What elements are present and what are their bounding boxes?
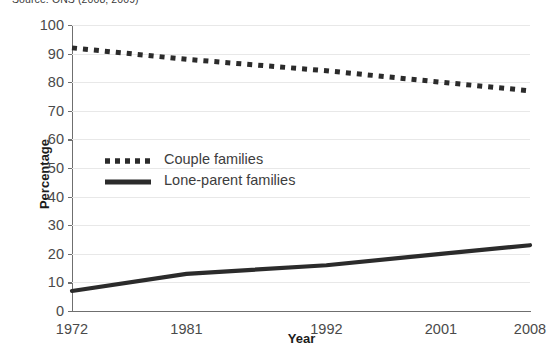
y-tick-mark [68, 311, 72, 312]
y-tick-label: 80 [48, 74, 64, 90]
legend-item: Couple families [104, 148, 295, 169]
series-line [72, 48, 530, 91]
x-axis-line [72, 311, 531, 312]
y-tick-label: 90 [48, 46, 64, 62]
x-tick-label: 2001 [425, 321, 457, 337]
y-tick-label: 0 [56, 303, 64, 319]
y-tick-label: 70 [48, 103, 64, 119]
x-tick-label: 1972 [56, 321, 88, 337]
dotted-line-icon [104, 153, 152, 165]
chart-legend: Couple familiesLone-parent families [104, 148, 295, 190]
chart-screenshot: Source: ONS (2008; 2009) Percentage Year… [0, 0, 551, 348]
y-tick-label: 50 [48, 160, 64, 176]
y-tick-label: 100 [40, 17, 64, 33]
legend-label: Couple families [164, 151, 263, 167]
x-tick-label: 2008 [514, 321, 546, 337]
source-caption: Source: ONS (2008; 2009) [12, 0, 139, 5]
x-axis-title: Year [72, 331, 531, 346]
y-tick-label: 30 [48, 217, 64, 233]
y-tick-label: 20 [48, 246, 64, 262]
y-tick-label: 40 [48, 189, 64, 205]
y-tick-label: 60 [48, 131, 64, 147]
x-tick-label: 1981 [170, 321, 202, 337]
series-line [72, 245, 530, 291]
x-tick-label: 1992 [310, 321, 342, 337]
y-tick-label: 10 [48, 274, 64, 290]
legend-label: Lone-parent families [164, 172, 295, 188]
legend-item: Lone-parent families [104, 169, 295, 190]
solid-line-icon [104, 174, 152, 186]
